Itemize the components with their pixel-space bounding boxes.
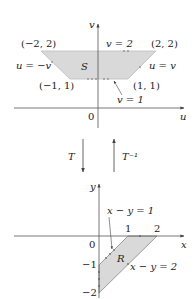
edge-label-v-eq-2: v = 2 — [106, 38, 133, 49]
t-inverse-label: T⁻¹ — [122, 151, 138, 162]
x-tick-2: 2 — [154, 223, 160, 234]
u-axis-label: u — [180, 111, 186, 122]
vertex-label-neg2-2: (−2, 2) — [21, 38, 56, 49]
region-s — [41, 51, 156, 79]
vertex-label-1-1: (1, 1) — [133, 80, 160, 91]
y-tick-neg2: −2 — [82, 287, 97, 298]
x-axis-label: x — [181, 239, 187, 250]
origin-label-uv: 0 — [88, 111, 94, 122]
edge-label-u-eq-neg-v: u = −v — [16, 60, 52, 71]
t-label: T — [68, 151, 76, 162]
region-s-label: S — [81, 61, 88, 72]
x-minus-y-eq-1-pointer — [109, 217, 112, 249]
xy-plane: y x 0 1 2 −1 −2 x − y = 1 x − y = 2 R — [14, 181, 187, 298]
x-tick-1: 1 — [125, 223, 131, 234]
change-of-variables-diagram: v u 0 (−2, 2) (2, 2) (1, 1) (−1, 1) v = … — [0, 0, 194, 299]
edge-label-u-eq-v: u = v — [149, 60, 176, 71]
v-axis-label: v — [89, 19, 95, 30]
vertex-label-2-2: (2, 2) — [151, 38, 178, 49]
edge-label-x-minus-y-eq-2: x − y = 2 — [130, 261, 177, 272]
transform-arrows: T T⁻¹ — [68, 139, 138, 172]
edge-label-x-minus-y-eq-1: x − y = 1 — [107, 205, 154, 216]
region-r-label: R — [116, 253, 125, 264]
uv-plane: v u 0 (−2, 2) (2, 2) (1, 1) (−1, 1) v = … — [14, 19, 186, 128]
origin-label-xy: 0 — [89, 239, 95, 250]
edge-label-v-eq-1: v = 1 — [117, 94, 144, 105]
v-eq-1-pointer — [114, 81, 122, 95]
vertex-label-neg1-1: (−1, 1) — [39, 80, 74, 91]
y-tick-neg1: −1 — [82, 259, 97, 270]
y-axis-label: y — [89, 181, 96, 192]
